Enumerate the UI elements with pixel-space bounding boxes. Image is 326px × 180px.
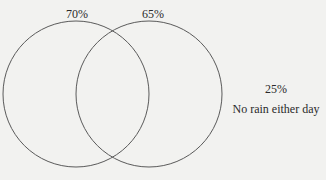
set-a-label: 70% bbox=[52, 7, 102, 21]
outside-region-label: 25% No rain either day bbox=[226, 79, 326, 119]
set-b-label: 65% bbox=[128, 7, 178, 21]
outside-caption: No rain either day bbox=[226, 99, 326, 119]
outside-percent: 25% bbox=[226, 79, 326, 99]
